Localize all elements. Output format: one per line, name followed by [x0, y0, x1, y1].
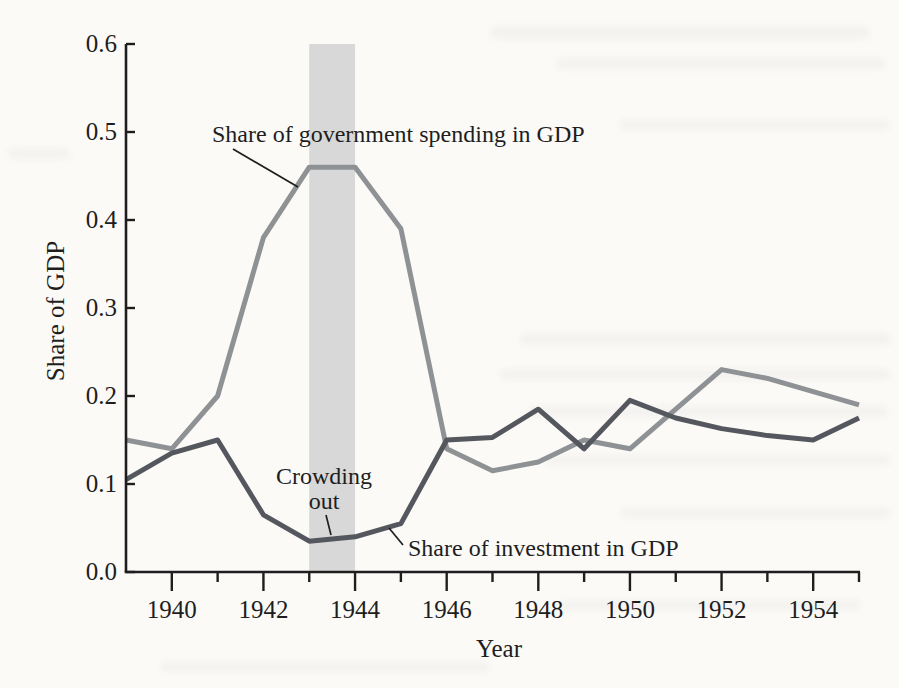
government-spending-label: Share of government spending in GDP — [212, 121, 585, 147]
investment-label: Share of investment in GDP — [408, 535, 679, 561]
scanned-page: 0.00.10.20.30.40.50.61940194219441946194… — [0, 0, 899, 688]
x-tick-label: 1952 — [697, 596, 747, 623]
crowding-out-label-line2: out — [309, 488, 340, 514]
x-tick-label: 1946 — [422, 596, 472, 623]
government-spending-line — [126, 167, 859, 471]
chart-svg: 0.00.10.20.30.40.50.61940194219441946194… — [0, 0, 899, 688]
x-tick-label: 1954 — [788, 596, 839, 623]
y-tick-label: 0.2 — [86, 382, 117, 409]
x-tick-label: 1948 — [513, 596, 563, 623]
x-tick-label: 1940 — [147, 596, 197, 623]
y-tick-label: 0.0 — [86, 558, 117, 585]
x-tick-label: 1950 — [605, 596, 655, 623]
government-label-leader-line — [233, 149, 298, 187]
y-tick-label: 0.4 — [86, 206, 118, 233]
y-tick-label: 0.5 — [86, 118, 117, 145]
series-layer — [126, 167, 859, 541]
x-tick-label: 1942 — [238, 596, 288, 623]
y-axis-title: Share of GDP — [42, 241, 69, 381]
x-axis-title: Year — [476, 635, 523, 662]
crowding-out-label-line1: Crowding — [276, 463, 372, 489]
x-tick-label: 1944 — [330, 596, 381, 623]
investment-label-leader-line — [389, 528, 403, 545]
y-tick-label: 0.6 — [86, 30, 117, 57]
y-tick-label: 0.3 — [86, 294, 117, 321]
y-tick-label: 0.1 — [86, 470, 117, 497]
